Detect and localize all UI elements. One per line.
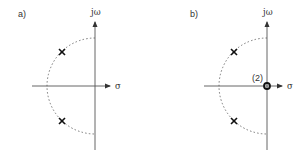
panel-b-jw-axis-label: jω bbox=[262, 7, 273, 17]
panel-a-label: a) bbox=[18, 9, 26, 19]
panel-b-sigma-axis-label: σ bbox=[287, 81, 293, 91]
panel-a-pole-lower-cross-icon bbox=[59, 118, 65, 124]
panel-b-pole-upper-cross-icon bbox=[231, 49, 237, 55]
panel-b-label: b) bbox=[190, 9, 198, 19]
panel-a-sigma-axis-label: σ bbox=[115, 81, 121, 91]
panel-b: b) jω σ (2) bbox=[190, 7, 293, 150]
panel-a-jw-axis-label: jω bbox=[90, 7, 101, 17]
panel-b-pole-lower-cross-icon bbox=[231, 118, 237, 124]
panel-b-zero-multiplicity-label: (2) bbox=[252, 73, 263, 83]
panel-a-pole-upper-cross-icon bbox=[59, 49, 65, 55]
pole-zero-diagrams: a) jω σ b) jω σ bbox=[0, 0, 307, 160]
panel-a: a) jω σ bbox=[18, 7, 121, 150]
